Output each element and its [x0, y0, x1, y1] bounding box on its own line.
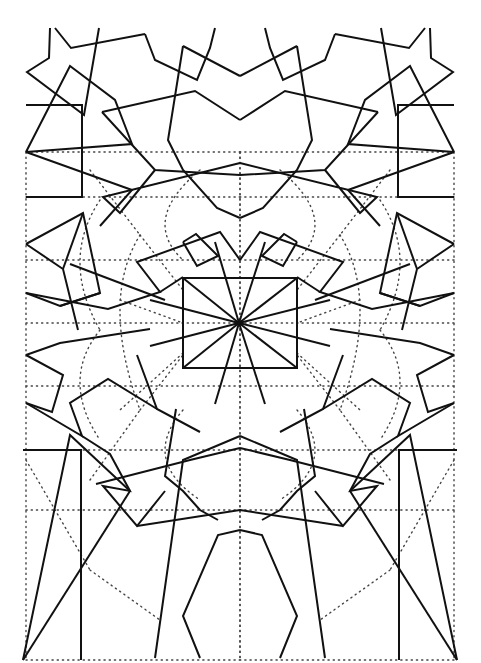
- geometric-pattern-canvas: [0, 0, 481, 663]
